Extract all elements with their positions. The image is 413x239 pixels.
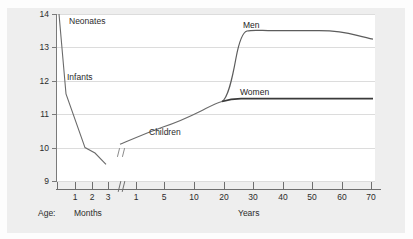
x-tick-label-year-5: 5 bbox=[156, 192, 172, 202]
curve-children bbox=[120, 102, 222, 145]
y-tick-label-12: 12 bbox=[33, 76, 49, 86]
x-tick-label-year-1: 1 bbox=[128, 192, 144, 202]
x-tick-label-year-40: 40 bbox=[275, 192, 291, 202]
y-tick-label-10: 10 bbox=[33, 143, 49, 153]
x-tick-month-3 bbox=[108, 182, 109, 189]
x-axis-caption-months: Months bbox=[74, 208, 102, 218]
x-tick-label-month-2: 2 bbox=[84, 192, 100, 202]
figure-margin-top bbox=[0, 0, 413, 8]
gridline-9 bbox=[57, 181, 375, 182]
x-axis-line bbox=[56, 189, 381, 190]
x-tick-year-10 bbox=[194, 182, 195, 189]
x-tick-year-40 bbox=[283, 182, 284, 189]
series-curves bbox=[57, 14, 375, 181]
y-tick-13 bbox=[52, 47, 57, 48]
x-tick-label-year-30: 30 bbox=[245, 192, 261, 202]
figure-margin-bottom bbox=[0, 233, 413, 239]
annotation-men: Men bbox=[243, 20, 260, 30]
x-tick-month-2 bbox=[92, 182, 93, 189]
x-tick-label-year-70: 70 bbox=[363, 192, 379, 202]
figure-margin-right bbox=[405, 0, 413, 239]
x-tick-label-year-50: 50 bbox=[304, 192, 320, 202]
annotation-infants: Infants bbox=[67, 72, 93, 82]
annotation-neonates: Neonates bbox=[69, 16, 105, 26]
x-tick-months-origin bbox=[57, 182, 58, 189]
x-tick-label-year-20: 20 bbox=[216, 192, 232, 202]
y-tick-label-9: 9 bbox=[33, 176, 49, 186]
x-tick-year-30 bbox=[253, 182, 254, 189]
x-tick-label-year-60: 60 bbox=[334, 192, 350, 202]
x-tick-year-50 bbox=[312, 182, 313, 189]
x-tick-year-1 bbox=[136, 182, 137, 189]
curve-neonates-infants bbox=[59, 14, 106, 164]
x-tick-label-month-3: 3 bbox=[100, 192, 116, 202]
x-axis-title: Age: bbox=[38, 208, 56, 218]
y-tick-11 bbox=[52, 114, 57, 115]
curve-women bbox=[222, 99, 373, 102]
x-axis-break-mark-right bbox=[122, 181, 126, 192]
annotation-children: Children bbox=[149, 127, 181, 137]
x-tick-year-60 bbox=[342, 182, 343, 189]
x-tick-year-20 bbox=[224, 182, 225, 189]
x-axis-break-mark-left bbox=[118, 181, 122, 192]
y-tick-label-14: 14 bbox=[33, 9, 49, 19]
y-axis-line bbox=[56, 14, 57, 182]
y-tick-10 bbox=[52, 148, 57, 149]
x-tick-year-5 bbox=[164, 182, 165, 189]
x-tick-month-1 bbox=[75, 182, 76, 189]
x-axis-caption-years: Years bbox=[238, 208, 259, 218]
x-tick-label-month-1: 1 bbox=[67, 192, 83, 202]
plot-area: Neonates Infants Children Men Women bbox=[57, 14, 375, 181]
figure-margin-left bbox=[0, 0, 7, 239]
x-tick-year-70 bbox=[371, 182, 372, 189]
haemoglobin-age-chart-figure: Neonates Infants Children Men Women 14 1… bbox=[0, 0, 413, 239]
y-tick-14 bbox=[52, 14, 57, 15]
x-tick-label-year-10: 10 bbox=[186, 192, 202, 202]
y-tick-12 bbox=[52, 81, 57, 82]
y-tick-label-13: 13 bbox=[33, 42, 49, 52]
annotation-women: Women bbox=[240, 87, 269, 97]
y-tick-label-11: 11 bbox=[33, 109, 49, 119]
